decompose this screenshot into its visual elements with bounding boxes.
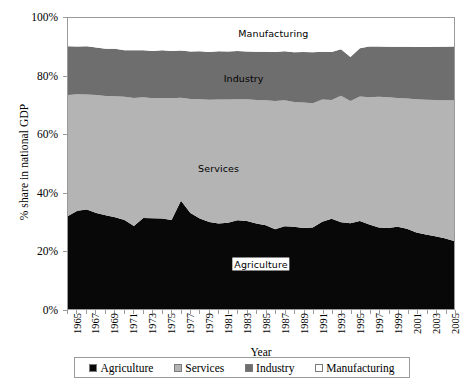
legend-swatch-icon — [315, 364, 323, 372]
x-tick-mark — [408, 310, 409, 314]
x-tick-label: 1987 — [280, 313, 291, 334]
x-tick-label: 1985 — [261, 313, 272, 334]
y-tick-label: 100% — [12, 11, 58, 23]
x-tick-label: 1975 — [166, 313, 177, 334]
legend-label: Industry — [256, 362, 294, 374]
x-tick-mark — [105, 310, 106, 314]
series-label-industry: Industry — [224, 72, 264, 83]
legend-entry-agriculture[interactable]: Agriculture — [89, 362, 153, 374]
y-tick-label: 60% — [12, 128, 58, 140]
x-tick-label: 1993 — [336, 313, 347, 334]
x-tick-mark — [162, 310, 163, 314]
legend-entry-industry[interactable]: Industry — [245, 362, 294, 374]
x-tick-mark — [67, 310, 68, 314]
x-tick-mark — [370, 310, 371, 314]
x-tick-mark — [389, 310, 390, 314]
x-tick-label: 1999 — [393, 313, 404, 334]
x-tick-label: 2005 — [450, 313, 461, 334]
x-tick-label: 1965 — [72, 313, 83, 334]
legend-swatch-icon — [174, 364, 182, 372]
area-band-services — [68, 94, 454, 241]
x-tick-mark — [124, 310, 125, 314]
x-tick-label: 1971 — [128, 313, 139, 334]
legend-entry-manufacturing[interactable]: Manufacturing — [315, 362, 394, 374]
x-tick-label: 1991 — [318, 313, 329, 334]
legend-label: Services — [185, 362, 224, 374]
x-tick-mark — [237, 310, 238, 314]
x-tick-label: 1995 — [355, 313, 366, 334]
x-tick-mark — [86, 310, 87, 314]
x-tick-mark — [143, 310, 144, 314]
x-tick-label: 1983 — [242, 313, 253, 334]
series-label-agriculture: Agriculture — [232, 257, 289, 270]
x-tick-mark — [275, 310, 276, 314]
legend-label: Manufacturing — [326, 362, 394, 374]
x-tick-label: 1981 — [223, 313, 234, 334]
y-tick-label: 40% — [12, 187, 58, 199]
y-axis-tick-labels: 0%20%40%60%80%100% — [12, 0, 58, 387]
stacked-area-chart: % share in national GDP 0%20%40%60%80%10… — [0, 0, 476, 387]
legend-label: Agriculture — [100, 362, 153, 374]
x-tick-mark — [313, 310, 314, 314]
y-tick-label: 80% — [12, 70, 58, 82]
x-tick-mark — [446, 310, 447, 314]
x-tick-label: 1979 — [204, 313, 215, 334]
x-tick-mark — [351, 310, 352, 314]
y-tick-label: 0% — [12, 304, 58, 316]
x-tick-label: 1977 — [185, 313, 196, 334]
x-tick-mark — [181, 310, 182, 314]
x-tick-label: 1997 — [374, 313, 385, 334]
x-tick-mark — [218, 310, 219, 314]
series-label-services: Services — [198, 162, 239, 173]
x-tick-label: 2003 — [431, 313, 442, 334]
legend-entry-services[interactable]: Services — [174, 362, 224, 374]
x-tick-mark — [427, 310, 428, 314]
x-tick-mark — [199, 310, 200, 314]
x-axis-tick-labels: 1965196719691971197319751977197919811983… — [67, 311, 455, 347]
x-tick-mark — [256, 310, 257, 314]
legend-swatch-icon — [89, 364, 97, 372]
plot-area: ManufacturingIndustryServicesAgriculture — [67, 17, 455, 310]
x-tick-mark — [294, 310, 295, 314]
chart-legend: AgricultureServicesIndustryManufacturing — [74, 357, 410, 378]
x-tick-label: 1989 — [299, 313, 310, 334]
series-label-manufacturing: Manufacturing — [238, 27, 308, 38]
y-tick-label: 20% — [12, 245, 58, 257]
legend-swatch-icon — [245, 364, 253, 372]
x-tick-label: 1969 — [109, 313, 120, 334]
x-tick-mark — [332, 310, 333, 314]
x-tick-label: 1967 — [90, 313, 101, 334]
x-tick-label: 1973 — [147, 313, 158, 334]
x-tick-label: 2001 — [412, 313, 423, 334]
